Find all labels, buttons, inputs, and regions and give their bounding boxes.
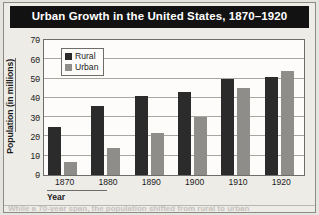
bar-group: [131, 40, 174, 175]
legend-item-urban: Urban: [65, 62, 98, 73]
bar-urban-1900: [194, 117, 207, 175]
plot-frame: Rural Urban: [43, 39, 305, 176]
bar-group: [174, 40, 217, 175]
caption-strip: While a 70-year span, the population shi…: [4, 206, 315, 215]
bar-urban-1890: [151, 133, 164, 175]
chart-title-bar: Urban Growth in the United States, 1870–…: [10, 6, 309, 28]
caption-text: While a 70-year span, the population shi…: [8, 206, 249, 213]
chart-figure: Urban Growth in the United States, 1870–…: [0, 0, 319, 215]
bar-urban-1920: [281, 71, 294, 175]
legend-swatch-rural-icon: [65, 53, 72, 60]
y-axis-tick-mark: [36, 175, 40, 176]
bar-urban-1880: [107, 148, 120, 175]
page-title: Urban Growth in the United States, 1870–…: [32, 11, 288, 23]
y-axis-title-wrap: Population (in millions): [0, 44, 16, 180]
bar-rural-1880: [91, 106, 104, 175]
y-axis-tick-mark: [36, 40, 40, 41]
bar-urban-1870: [64, 162, 77, 176]
legend-swatch-urban-icon: [65, 64, 72, 71]
y-axis-tick-mark: [36, 59, 40, 60]
x-axis-tick-label: 1880: [86, 178, 129, 187]
y-axis-title: Population (in millions): [6, 44, 15, 168]
x-axis-tick-label: 1870: [43, 178, 86, 187]
x-axis-tick-label: 1900: [173, 178, 216, 187]
y-axis-ticks: 706050403020100: [17, 39, 40, 176]
x-axis-tick-label: 1910: [216, 178, 259, 187]
y-axis-tick-mark: [36, 117, 40, 118]
y-axis-tick-mark: [36, 136, 40, 137]
bar-urban-1910: [237, 88, 250, 175]
bar-group: [217, 40, 260, 175]
legend-item-rural: Rural: [65, 51, 98, 62]
bar-rural-1920: [265, 77, 278, 175]
bar-rural-1890: [135, 96, 148, 175]
x-axis-tick-label: 1890: [130, 178, 173, 187]
bar-rural-1910: [221, 79, 234, 175]
bar-rural-1900: [178, 92, 191, 175]
bar-group: [261, 40, 304, 175]
y-axis-tick-mark: [36, 79, 40, 80]
legend-label-urban: Urban: [75, 63, 98, 72]
x-axis-title: Year: [47, 193, 65, 202]
bar-rural-1870: [48, 127, 61, 175]
y-axis-title-rule: [15, 58, 16, 132]
x-axis-title-rule: [47, 190, 107, 191]
chart-legend: Rural Urban: [61, 48, 104, 76]
y-axis-tick-mark: [36, 98, 40, 99]
y-axis-tick-mark: [36, 156, 40, 157]
x-axis-tick-label: 1920: [260, 178, 303, 187]
legend-label-rural: Rural: [75, 52, 96, 61]
